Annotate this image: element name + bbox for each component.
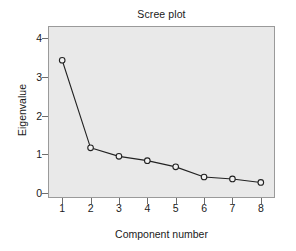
- y-tick-label: 1: [28, 149, 42, 160]
- x-tick-label: 8: [253, 203, 269, 214]
- y-tick-label: 2: [28, 111, 42, 122]
- data-point-marker: [59, 57, 65, 63]
- x-tick-label: 5: [168, 203, 184, 214]
- data-point-marker: [201, 174, 207, 180]
- data-point-marker: [116, 154, 122, 160]
- x-tick-mark: [119, 198, 120, 204]
- x-tick-label: 1: [54, 203, 70, 214]
- scree-plot-figure: Scree plot 01234 12345678 Component numb…: [0, 0, 296, 251]
- chart-title: Scree plot: [48, 8, 275, 20]
- data-point-marker: [258, 180, 264, 186]
- x-tick-mark: [91, 198, 92, 204]
- eigenvalue-line: [62, 60, 261, 182]
- x-tick-mark: [176, 198, 177, 204]
- y-tick-label: 3: [28, 72, 42, 83]
- x-tick-mark: [204, 198, 205, 204]
- x-tick-label: 2: [83, 203, 99, 214]
- x-tick-mark: [147, 198, 148, 204]
- series-plot: [48, 26, 275, 198]
- x-tick-mark: [62, 198, 63, 204]
- eigenvalue-markers: [59, 57, 263, 185]
- x-tick-label: 4: [139, 203, 155, 214]
- x-tick-label: 3: [111, 203, 127, 214]
- x-tick-mark: [261, 198, 262, 204]
- x-tick-label: 7: [224, 203, 240, 214]
- x-tick-mark: [232, 198, 233, 204]
- data-point-marker: [145, 158, 151, 164]
- x-axis-label: Component number: [48, 228, 275, 240]
- y-tick-label: 4: [28, 33, 42, 44]
- data-point-marker: [173, 164, 179, 170]
- y-axis-label: Eigenvalue: [16, 50, 28, 170]
- x-tick-label: 6: [196, 203, 212, 214]
- y-tick-label: 0: [28, 188, 42, 199]
- data-point-marker: [88, 145, 94, 151]
- data-point-marker: [230, 176, 236, 182]
